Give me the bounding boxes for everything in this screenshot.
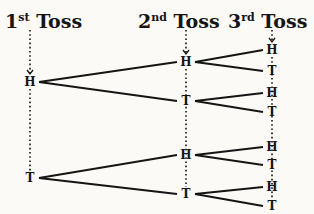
- header-number: 2: [138, 10, 151, 32]
- node-level3-tails: T: [264, 200, 280, 212]
- branch-line: [195, 93, 263, 101]
- header-word: Toss: [36, 10, 82, 32]
- node-level3-tails: T: [264, 106, 280, 118]
- branch-line: [39, 155, 177, 178]
- header-first-toss: 1st Toss: [5, 8, 82, 31]
- header-number: 1: [5, 10, 18, 32]
- node-level2-tails: T: [178, 188, 194, 200]
- node-level3-heads: H: [264, 141, 280, 153]
- branch-line: [195, 101, 263, 112]
- branch-line: [195, 187, 263, 194]
- header-third-toss: 3rd Toss: [228, 8, 307, 31]
- probability-tree-diagram: 1st Toss 2nd Toss 3rd Toss HTHTHTHTHTHTH…: [0, 0, 314, 214]
- branch-line: [39, 178, 177, 194]
- branch-line: [195, 147, 263, 155]
- header-suffix: nd: [151, 11, 167, 24]
- header-word: Toss: [261, 10, 307, 32]
- branch-line: [195, 194, 263, 206]
- header-suffix: rd: [241, 11, 255, 24]
- node-level2-tails: T: [178, 95, 194, 107]
- node-level3-tails: T: [264, 65, 280, 77]
- branch-line: [195, 50, 263, 62]
- node-level3-heads: H: [264, 181, 280, 193]
- node-level1-tails: T: [22, 172, 38, 184]
- branch-line: [39, 62, 177, 82]
- node-level2-heads: H: [178, 56, 194, 68]
- branch-line: [39, 82, 177, 101]
- node-level3-tails: T: [264, 159, 280, 171]
- node-level3-heads: H: [264, 44, 280, 56]
- branch-line: [195, 155, 263, 165]
- node-level3-heads: H: [264, 87, 280, 99]
- header-number: 3: [228, 10, 241, 32]
- header-suffix: st: [18, 11, 29, 24]
- header-second-toss: 2nd Toss: [138, 8, 220, 31]
- branch-line: [195, 62, 263, 71]
- node-level2-heads: H: [178, 149, 194, 161]
- header-word: Toss: [174, 10, 220, 32]
- node-level1-heads: H: [22, 76, 38, 88]
